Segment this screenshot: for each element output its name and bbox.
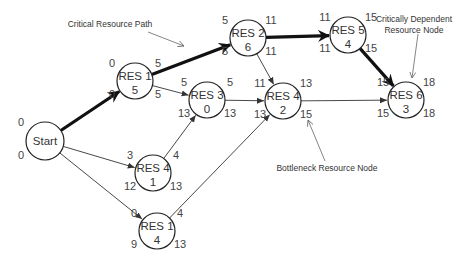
node-time-tl: 0 bbox=[109, 57, 115, 69]
diagram-svg: Critical Resource PathCritically Depende… bbox=[0, 0, 457, 258]
node-time-bl: 15 bbox=[377, 107, 389, 119]
node-time-br: 13 bbox=[170, 180, 182, 192]
annotation-label: Bottleneck Resource Node bbox=[276, 163, 377, 173]
node-res3: RES 30513513 bbox=[178, 76, 236, 119]
node-time-bl: 13 bbox=[178, 107, 190, 119]
node-label: RES 1 bbox=[140, 220, 173, 232]
node-time-bl: 0 bbox=[109, 88, 115, 100]
node-duration: 2 bbox=[280, 104, 286, 116]
node-res2: RES 26551111 bbox=[222, 14, 277, 57]
nodes-layer: Start00RES 150055RES 26551111RES 3051351… bbox=[18, 11, 435, 250]
critical-edge-res2-to-res5 bbox=[266, 36, 329, 38]
node-time-tr: 4 bbox=[177, 207, 183, 219]
node-time-tr: 5 bbox=[155, 57, 161, 69]
node-time-tr: 15 bbox=[365, 11, 377, 23]
node-time-tl: 5 bbox=[222, 14, 228, 26]
node-time-bl: 9 bbox=[131, 238, 137, 250]
node-duration: 4 bbox=[154, 234, 161, 246]
annotation-bottleneck: Bottleneck Resource Node bbox=[276, 120, 377, 173]
node-label: RES 5 bbox=[331, 24, 364, 36]
node-duration: 1 bbox=[150, 176, 156, 188]
node-time-tl: 0 bbox=[131, 207, 137, 219]
annotation-label: Critically Dependent bbox=[376, 14, 453, 24]
node-time-br: 15 bbox=[300, 108, 312, 120]
node-time-bl: 5 bbox=[222, 45, 228, 57]
annotation-label: Critical Resource Path bbox=[68, 19, 153, 29]
node-time-tr: 5 bbox=[227, 76, 233, 88]
edge-res4_mid-to-res6 bbox=[301, 100, 387, 101]
annotation-critically-dependent: Critically DependentResource Node bbox=[376, 14, 453, 78]
node-time-tr: 18 bbox=[423, 76, 435, 88]
node-duration: 3 bbox=[403, 103, 409, 115]
node-duration: 4 bbox=[345, 38, 352, 50]
node-time-bl: 11 bbox=[319, 42, 330, 54]
annotation-label: Resource Node bbox=[384, 25, 443, 35]
node-time-br: 11 bbox=[265, 45, 276, 57]
node-time-bl: 12 bbox=[124, 180, 136, 192]
annotation-pointer-arrow bbox=[308, 120, 325, 161]
node-time-tl: 5 bbox=[181, 76, 187, 88]
node-time-bl: 0 bbox=[18, 149, 24, 161]
node-time-br: 15 bbox=[365, 42, 377, 54]
node-time-br: 13 bbox=[174, 238, 186, 250]
node-duration: 6 bbox=[245, 41, 251, 53]
annotation-critical-path: Critical Resource Path bbox=[68, 19, 184, 46]
annotation-pointer-arrow bbox=[412, 34, 418, 78]
node-label: RES 4 bbox=[136, 162, 170, 174]
node-label: RES 2 bbox=[231, 27, 264, 39]
node-res4-mid: RES 4211131315 bbox=[254, 77, 312, 120]
node-label: RES 1 bbox=[118, 70, 151, 82]
node-label: RES 4 bbox=[266, 90, 300, 102]
node-time-tl: 3 bbox=[127, 149, 133, 161]
node-res6: RES 6315151818 bbox=[377, 76, 435, 119]
node-time-tr: 4 bbox=[173, 149, 179, 161]
node-start: Start00 bbox=[18, 116, 64, 161]
node-time-tl: 11 bbox=[319, 11, 330, 23]
node-time-tl: 15 bbox=[377, 76, 389, 88]
node-time-bl: 13 bbox=[254, 108, 266, 120]
node-time-br: 13 bbox=[224, 107, 236, 119]
node-time-tr: 13 bbox=[300, 77, 312, 89]
node-time-br: 18 bbox=[423, 107, 435, 119]
node-res5: RES 5411111515 bbox=[319, 11, 377, 54]
node-duration: 5 bbox=[132, 84, 138, 96]
node-label: RES 3 bbox=[190, 89, 223, 101]
critical-edge-res1_top-to-res2 bbox=[152, 45, 230, 75]
node-res4-low: RES 41312413 bbox=[124, 149, 182, 192]
node-time-br: 5 bbox=[155, 88, 161, 100]
annotation-pointer-arrow bbox=[148, 32, 184, 46]
node-label: Start bbox=[33, 135, 58, 147]
edge-res4_low-to-res3 bbox=[164, 115, 196, 158]
node-res1-low: RES 1409413 bbox=[131, 207, 186, 250]
node-duration: 0 bbox=[204, 103, 210, 115]
node-time-tr: 11 bbox=[265, 14, 276, 26]
edge-res3-to-res4_mid bbox=[225, 100, 264, 101]
network-diagram: Critical Resource PathCritically Depende… bbox=[0, 0, 457, 258]
node-time-tl: 0 bbox=[18, 116, 24, 128]
node-time-tl: 11 bbox=[254, 77, 265, 89]
node-label: RES 6 bbox=[389, 89, 422, 101]
